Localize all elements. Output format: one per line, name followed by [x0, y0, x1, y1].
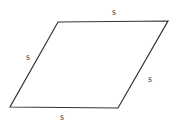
- label-bottom-side: s: [60, 111, 64, 122]
- rhombus-diagram: s s s s: [0, 0, 174, 126]
- rhombus-shape: [10, 21, 168, 108]
- label-right-side: s: [148, 73, 152, 84]
- label-left-side: s: [26, 51, 30, 62]
- label-top-side: s: [112, 6, 116, 17]
